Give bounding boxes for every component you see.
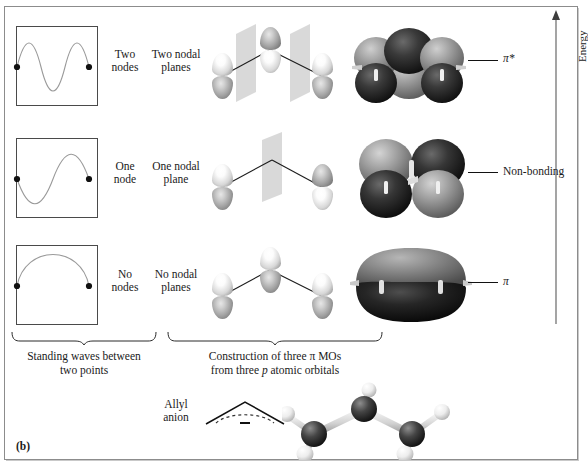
caption-right-pre: from three	[211, 364, 262, 376]
p-orbital-set-bonding	[206, 238, 346, 334]
p-orbital	[212, 164, 233, 210]
mo-surface-bonding	[348, 244, 474, 332]
nodal-plane-icon	[262, 132, 282, 202]
energy-level-line-antibonding	[468, 60, 498, 61]
caption-right: Construction of three π MOs from three p…	[166, 350, 384, 377]
mo-surface-antibonding	[348, 22, 470, 118]
hydrogen-atom	[362, 383, 377, 398]
caption-right-line2: from three p atomic orbitals	[166, 364, 384, 378]
carbon-atom	[351, 396, 377, 422]
p-orbital	[212, 53, 233, 99]
nodal-plane-icon	[290, 24, 310, 102]
p-orbital	[312, 273, 333, 319]
standing-wave-box-one-node	[16, 138, 98, 218]
caption-right-post: atomic orbitals	[268, 364, 340, 376]
standing-wave-box-two-nodes	[16, 26, 98, 106]
energy-axis-label: Energy	[576, 30, 588, 62]
wave-label-two-nodes: Two nodes	[104, 48, 146, 74]
caption-left: Standing waves between two points	[8, 350, 160, 377]
standing-wave-box-no-nodes	[16, 245, 98, 325]
allyl-anion-ball-and-stick-model	[282, 382, 462, 464]
nodal-label-two-nodal-planes: Two nodal planes	[146, 48, 206, 74]
p-orbital	[312, 164, 333, 210]
p-orbital-set-antibonding	[206, 18, 346, 118]
p-orbital	[212, 273, 233, 319]
nodal-label-no-nodal-planes: No nodal planes	[146, 268, 206, 294]
allyl-anion-label: Allyl anion	[156, 398, 196, 424]
p-orbital	[312, 53, 333, 99]
wave-label-one-node: One node	[104, 160, 146, 186]
panel-tag: (b)	[16, 440, 30, 452]
p-orbital-set-nonbonding	[206, 132, 346, 228]
energy-level-label-pi: π	[503, 275, 509, 287]
caption-left-text: Standing waves between two points	[27, 350, 141, 376]
caption-right-line1: Construction of three π MOs	[166, 350, 384, 364]
energy-level-line-bonding	[468, 282, 498, 283]
carbon-atom	[399, 421, 425, 447]
carbon-atom	[301, 421, 327, 447]
energy-level-line-nonbonding	[468, 172, 498, 173]
arrow-up-icon	[552, 10, 560, 20]
hydrogen-atom	[434, 404, 450, 420]
p-orbital	[260, 247, 281, 293]
energy-level-label-pi-star: π*	[503, 52, 515, 64]
allyl-anion-structure	[202, 396, 288, 434]
mo-surface-nonbonding	[352, 136, 470, 226]
p-orbital	[260, 27, 281, 73]
nodal-label-one-nodal-plane: One nodal plane	[146, 160, 206, 186]
wave-label-no-nodes: No nodes	[104, 268, 146, 294]
